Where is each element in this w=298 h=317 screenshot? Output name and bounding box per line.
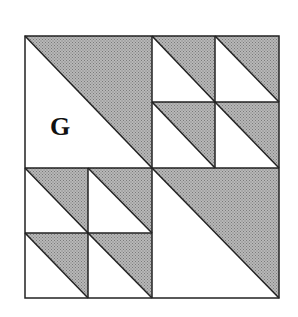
- block-label: G: [50, 114, 70, 140]
- quilt-block-diagram: [0, 0, 298, 317]
